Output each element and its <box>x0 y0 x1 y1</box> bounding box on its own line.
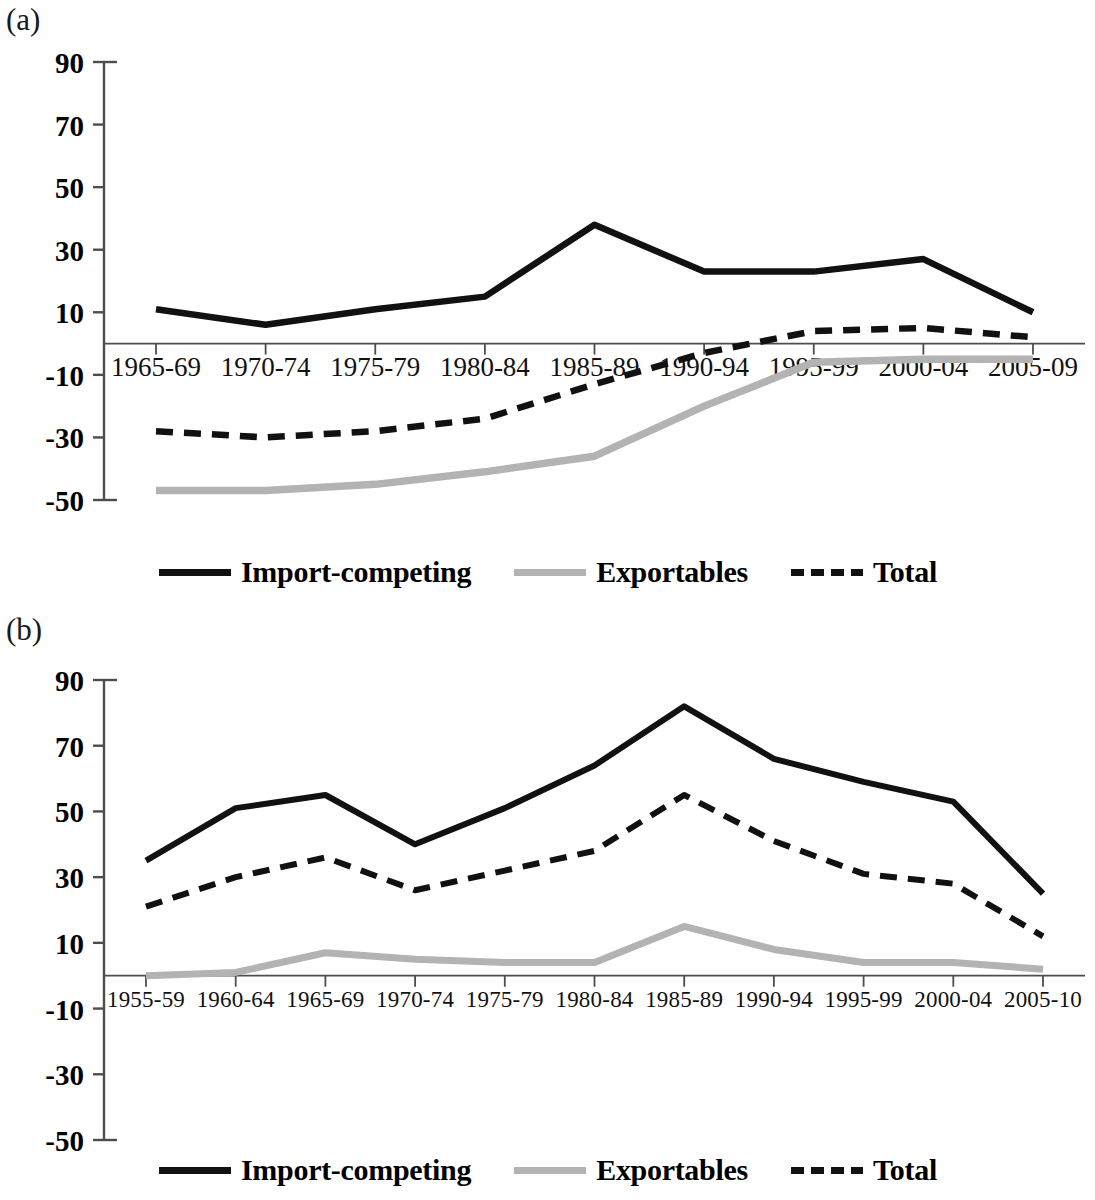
y-tick-label: 10 <box>55 928 84 960</box>
legend-label-import-competing: Import-competing <box>241 1155 471 1185</box>
x-tick-label: 1960-64 <box>197 987 275 1012</box>
line-chart-a: 9070503010-10-30-501965-691970-741975-79… <box>0 0 1095 545</box>
plot-area-b: 9070503010-10-30-501955-591960-641965-69… <box>0 612 1095 1195</box>
chart-panel-a: (a) 9070503010-10-30-501965-691970-74197… <box>0 0 1095 610</box>
x-tick-label: 1975-79 <box>466 987 544 1012</box>
x-tick-label: 2005-10 <box>1004 987 1082 1012</box>
y-tick-label: 50 <box>55 172 84 204</box>
legend-swatch-exportables <box>513 1166 587 1175</box>
x-tick-label: 1980-84 <box>555 987 633 1012</box>
legend-item-exportables: Exportables <box>513 557 748 587</box>
legend-label-import-competing: Import-competing <box>241 557 471 587</box>
legend-label-exportables: Exportables <box>596 1155 748 1185</box>
y-tick-label: -50 <box>45 485 84 517</box>
series-line-import-competing <box>156 225 1033 325</box>
x-tick-label: 1990-94 <box>659 352 749 382</box>
y-tick-label: -10 <box>45 360 84 392</box>
legend-label-total: Total <box>873 557 937 587</box>
y-tick-label: 90 <box>55 665 84 697</box>
x-tick-label: 1980-84 <box>440 352 530 382</box>
legend-item-total: Total <box>790 557 937 587</box>
y-tick-label: 90 <box>55 47 84 79</box>
legend-item-import-competing: Import-competing <box>158 1155 471 1185</box>
line-chart-b: 9070503010-10-30-501955-591960-641965-69… <box>0 660 1095 1195</box>
legend-swatch-exportables <box>513 568 587 577</box>
y-tick-label: -30 <box>45 1059 84 1091</box>
figure-root: (a) 9070503010-10-30-501965-691970-74197… <box>0 0 1095 1200</box>
x-tick-label: 1965-69 <box>111 352 201 382</box>
legend-swatch-total <box>790 1166 864 1175</box>
x-tick-label: 1990-94 <box>735 987 813 1012</box>
plot-area-a: 9070503010-10-30-501965-691970-741975-79… <box>0 0 1095 545</box>
x-tick-label: 2000-04 <box>914 987 992 1012</box>
x-tick-label: 1995-99 <box>825 987 903 1012</box>
legend-item-exportables: Exportables <box>513 1155 748 1185</box>
x-tick-label: 1970-74 <box>376 987 454 1012</box>
x-tick-label: 1955-59 <box>107 987 185 1012</box>
legend-swatch-total <box>790 568 864 577</box>
series-line-total <box>146 795 1043 936</box>
series-line-exportables <box>146 926 1043 975</box>
legend-swatch-import-competing <box>158 568 232 577</box>
legend-b: Import-competing Exportables Total <box>0 1146 1095 1194</box>
chart-panel-b: (b) 9070503010-10-30-501955-591960-64196… <box>0 612 1095 1200</box>
y-tick-label: 70 <box>55 110 84 142</box>
y-tick-label: -30 <box>45 422 84 454</box>
y-tick-label: -10 <box>45 994 84 1026</box>
legend-item-total: Total <box>790 1155 937 1185</box>
legend-a: Import-competing Exportables Total <box>0 548 1095 596</box>
legend-label-total: Total <box>873 1155 937 1185</box>
x-tick-label: 1970-74 <box>221 352 311 382</box>
legend-item-import-competing: Import-competing <box>158 557 471 587</box>
y-tick-label: 10 <box>55 297 84 329</box>
y-tick-label: 30 <box>55 862 84 894</box>
x-tick-label: 1975-79 <box>330 352 420 382</box>
y-tick-label: 30 <box>55 235 84 267</box>
x-tick-label: 1965-69 <box>286 987 364 1012</box>
x-tick-label: 1985-89 <box>645 987 723 1012</box>
legend-label-exportables: Exportables <box>596 557 748 587</box>
y-tick-label: 50 <box>55 796 84 828</box>
legend-swatch-import-competing <box>158 1166 232 1175</box>
y-tick-label: 70 <box>55 731 84 763</box>
